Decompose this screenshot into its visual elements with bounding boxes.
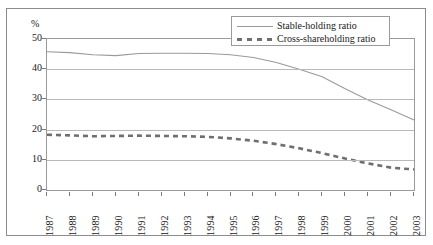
y-axis: 01020304050 [7,38,42,191]
x-axis-tick-label: 2000 [343,215,353,236]
x-axis-tick-mark [69,192,70,196]
gridline [47,130,414,131]
x-axis: 1987198819891990199119921993199419951996… [46,192,415,238]
y-axis-tick-mark [42,98,46,99]
legend-line-dashed-icon [235,34,275,44]
x-axis-tick-mark [230,192,231,196]
x-axis-tick-mark [207,192,208,196]
x-axis-tick-label: 1997 [274,215,284,236]
y-axis-tick-label: 50 [12,33,42,43]
x-axis-tick-label: 1999 [320,215,330,236]
x-axis-tick-mark [252,192,253,196]
x-axis-tick-mark [46,192,47,196]
series-line [47,135,414,170]
plot-area [46,38,415,191]
x-axis-tick-mark [275,192,276,196]
x-axis-tick-mark [367,192,368,196]
x-axis-tick-label: 1995 [229,215,239,236]
legend-item-stable-holding-ratio: Stable-holding ratio [235,19,386,32]
x-axis-tick-mark [390,192,391,196]
gridline [47,69,414,70]
x-axis-tick-mark [413,192,414,196]
x-axis-tick-label: 1994 [206,215,216,236]
x-axis-tick-mark [321,192,322,196]
x-axis-tick-mark [161,192,162,196]
x-axis-tick-label: 2002 [389,215,399,236]
legend-label: Stable-holding ratio [277,21,357,31]
x-axis-tick-label: 1990 [114,215,124,236]
x-axis-tick-label: 1987 [45,215,55,236]
x-axis-tick-label: 2003 [412,215,422,236]
x-axis-tick-label: 1993 [183,215,193,236]
x-axis-tick-mark [115,192,116,196]
x-axis-tick-mark [298,192,299,196]
series-line [47,52,414,120]
x-axis-tick-mark [184,192,185,196]
legend-label: Cross-shareholding ratio [277,34,376,44]
gridline [47,99,414,100]
y-axis-tick-mark [42,129,46,130]
x-axis-tick-mark [138,192,139,196]
x-axis-tick-label: 1991 [137,215,147,236]
y-axis-tick-mark [42,68,46,69]
y-axis-tick-label: 40 [12,63,42,73]
series-layer [47,39,414,190]
y-axis-tick-mark [42,159,46,160]
x-axis-tick-label: 1988 [68,215,78,236]
legend-line-solid-icon [235,21,275,31]
x-axis-tick-label: 1989 [91,215,101,236]
x-axis-tick-mark [344,192,345,196]
x-axis-tick-label: 1992 [160,215,170,236]
y-axis-tick-label: 10 [12,154,42,164]
y-axis-tick-mark [42,189,46,190]
y-axis-tick-label: 0 [12,184,42,194]
chart-legend: Stable-holding ratio Cross-shareholding … [231,16,390,46]
gridline [47,160,414,161]
x-axis-tick-mark [92,192,93,196]
x-axis-tick-label: 1998 [297,215,307,236]
x-axis-tick-label: 1996 [251,215,261,236]
y-axis-tick-label: 20 [12,124,42,134]
legend-item-cross-shareholding-ratio: Cross-shareholding ratio [235,32,386,45]
x-axis-tick-label: 2001 [366,215,376,236]
y-axis-tick-mark [42,38,46,39]
y-axis-tick-label: 30 [12,93,42,103]
chart-figure: % 01020304050 19871988198919901991199219… [6,8,426,236]
y-axis-unit-label: % [31,19,39,29]
